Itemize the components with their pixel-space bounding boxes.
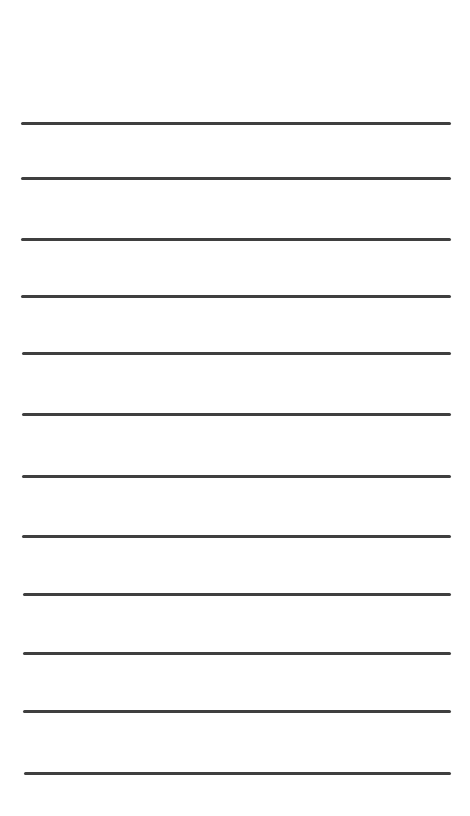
ruled-line — [22, 535, 451, 538]
ruled-line — [21, 295, 451, 298]
ruled-line — [21, 177, 451, 180]
ruled-line — [24, 772, 451, 775]
ruled-line — [22, 475, 451, 478]
ruled-line — [23, 593, 451, 596]
ruled-line — [22, 413, 451, 416]
ruled-sheet — [0, 0, 470, 816]
ruled-line — [21, 122, 451, 125]
ruled-line — [23, 710, 451, 713]
ruled-line — [23, 652, 451, 655]
ruled-line — [22, 352, 451, 355]
ruled-line — [21, 238, 451, 241]
